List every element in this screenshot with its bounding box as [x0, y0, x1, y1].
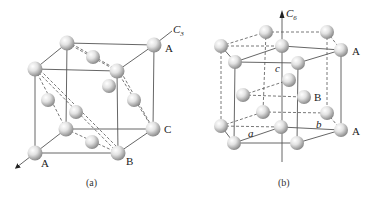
axis-label-c3: C3	[173, 23, 184, 38]
lattice-label-c: c	[275, 62, 280, 74]
panel-a-fcc: C3 A C A B (a)	[17, 23, 184, 189]
crystal-structures-figure: C3 A C A B (a)	[0, 0, 372, 204]
lattice-label-b: b	[316, 118, 322, 130]
layer-label-a-top: A	[352, 45, 360, 57]
caption-b: (b)	[278, 177, 290, 189]
layer-label-b: B	[126, 155, 133, 167]
layer-label-a-top: A	[165, 42, 173, 54]
layer-label-a-bottom: A	[352, 125, 360, 137]
caption-a: (a)	[86, 177, 97, 189]
layer-label-a-bottom: A	[41, 157, 49, 169]
layer-label-b: B	[314, 91, 321, 103]
lattice-label-a: a	[248, 127, 254, 139]
layer-label-c: C	[164, 123, 171, 135]
axis-label-c6: C6	[286, 7, 297, 22]
panel-b-hcp: C6 A B A c a b (b)	[214, 7, 360, 189]
